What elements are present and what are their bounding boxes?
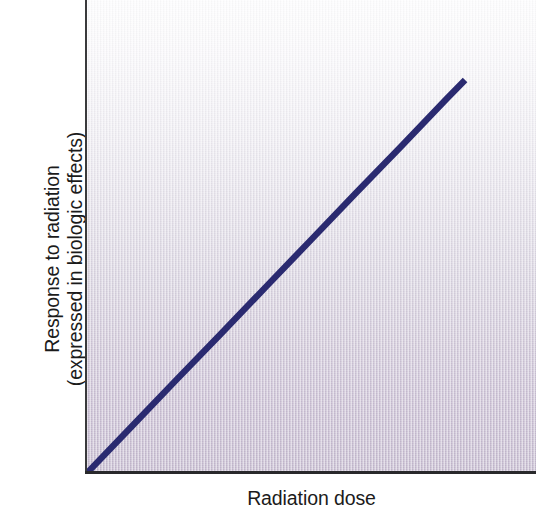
dose-response-figure: Response to radiation (expressed in biol… bbox=[0, 0, 536, 521]
y-axis-label-line-1: Response to radiation bbox=[41, 165, 64, 353]
dose-response-line bbox=[87, 80, 465, 473]
y-axis-label: Response to radiation (expressed in biol… bbox=[41, 22, 87, 496]
y-axis-line bbox=[85, 0, 87, 474]
x-axis-line bbox=[85, 471, 536, 474]
x-axis-label: Radiation dose bbox=[87, 487, 536, 510]
data-line-svg bbox=[87, 0, 536, 473]
plot-area bbox=[87, 0, 536, 473]
y-axis-label-line-2: (expressed in biologic effects) bbox=[64, 132, 87, 387]
